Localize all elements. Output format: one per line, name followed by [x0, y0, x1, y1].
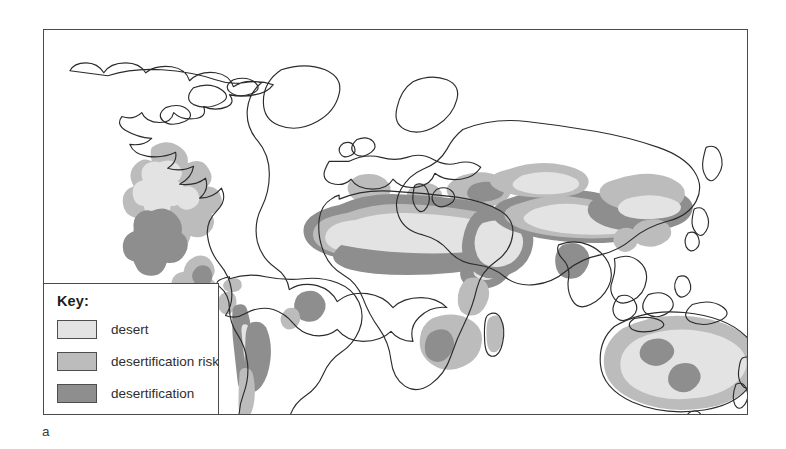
desertification-risk-swatch: [57, 352, 97, 371]
figure-container: Key: desert desertification risk deserti…: [0, 0, 786, 449]
legend-item-desertification-risk: desertification risk: [57, 352, 219, 371]
desert-swatch: [57, 320, 97, 339]
legend-title: Key:: [57, 293, 89, 309]
legend-item-desert: desert: [57, 320, 149, 339]
coastline-greenland: [263, 66, 340, 128]
shading-australia: [604, 316, 747, 410]
coastline-arctic-islands: [189, 85, 227, 107]
desertification-thar: [555, 243, 589, 279]
legend-label-desert: desert: [111, 323, 149, 337]
coastline-japan: [692, 208, 709, 236]
legend-label-desertification: desertification: [111, 387, 194, 401]
coastline-borneo: [643, 293, 674, 317]
risk-caribbean-strip: [223, 278, 242, 292]
coastline-philippines: [675, 276, 691, 297]
figure-sublabel: a: [42, 424, 50, 439]
coastline-japan-south: [685, 232, 699, 251]
desertification-northern-mexico: [123, 208, 188, 275]
risk-patagonia: [238, 368, 254, 414]
legend-item-desertification: desertification: [57, 384, 194, 403]
coastline-scandinavia: [396, 77, 458, 132]
desertification-swatch: [57, 384, 97, 403]
map-legend: Key: desert desertification risk deserti…: [43, 283, 219, 415]
legend-label-desertification-risk: desertification risk: [111, 355, 219, 369]
coastline-british-isles: [352, 138, 375, 156]
risk-brazil-interior: [281, 308, 301, 330]
coastline-sumatra: [613, 295, 637, 320]
coastline-kamchatka: [703, 146, 723, 181]
coastline-arctic-islands-3: [160, 106, 190, 125]
coastline-ireland: [339, 142, 355, 157]
coastline-arctic-islands-2: [227, 78, 258, 95]
risk-east-africa: [458, 277, 490, 315]
